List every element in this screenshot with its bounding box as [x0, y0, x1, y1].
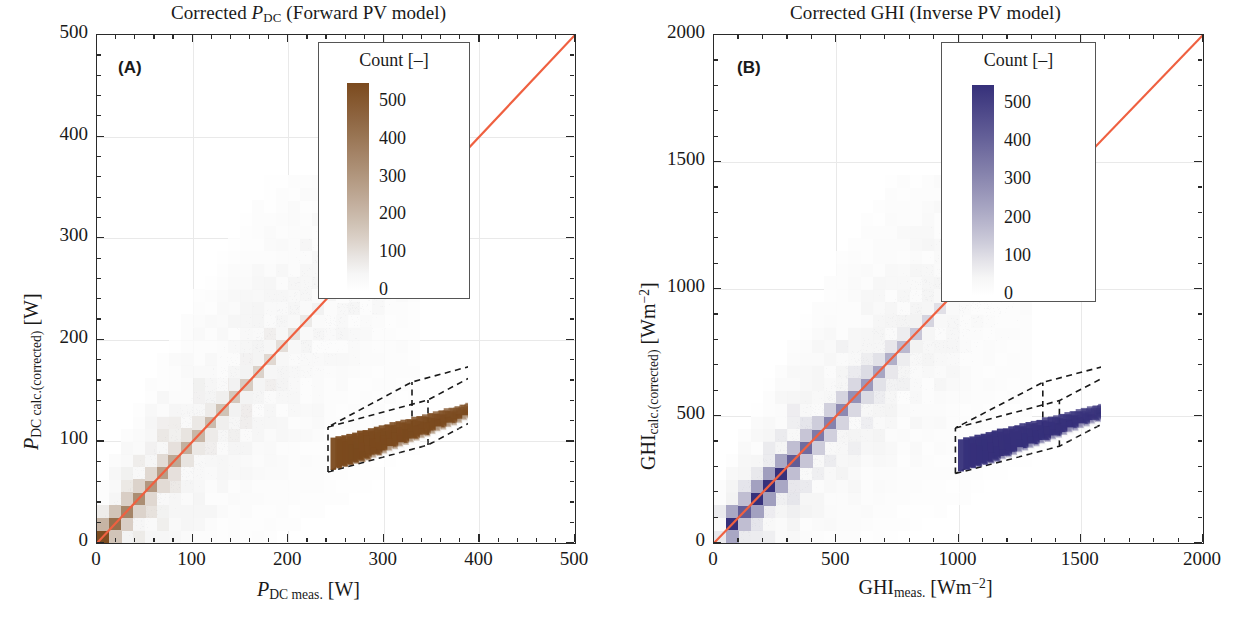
tick-y-minor — [713, 85, 718, 86]
tick-y-minor-right — [570, 115, 575, 116]
tick-x-minor-top — [498, 34, 499, 39]
panel-b-xaxis-title: GHImeas. [Wm−2] — [617, 576, 1234, 601]
tick-y-major-right — [1194, 542, 1202, 543]
colorbar-tick-label: 400 — [1004, 130, 1031, 151]
title-text-b: Corrected GHI (Inverse PV model) — [790, 2, 1061, 23]
tick-x-minor — [860, 538, 861, 543]
tick-x-minor-top — [1006, 34, 1007, 39]
tick-y-minor-right — [1198, 491, 1203, 492]
tick-y-minor-right — [1198, 466, 1203, 467]
tick-x-minor — [345, 538, 346, 543]
tick-x-minor — [211, 538, 212, 543]
tick-y-major — [96, 339, 104, 340]
tick-y-minor — [96, 217, 101, 218]
tick-x-minor-top — [1055, 34, 1056, 39]
tick-y-minor-right — [1198, 110, 1203, 111]
panel-b-yaxis-title: GHIcalc.(corrected) [Wm−2] — [637, 282, 662, 470]
tick-x-minor — [982, 538, 983, 543]
inset-3d-histogram-svg — [893, 352, 1101, 504]
tick-x-major-top — [383, 34, 384, 42]
tick-y-minor — [96, 258, 101, 259]
tick-x-minor-top — [982, 34, 983, 39]
title-text-a: Corrected PDC (Forward PV model) — [171, 2, 446, 23]
tick-y-minor — [713, 110, 718, 111]
tick-x-major — [1080, 534, 1081, 542]
x-tick-label: 0 — [673, 548, 753, 570]
tick-x-minor — [268, 538, 269, 543]
y-tick-label: 200 — [4, 326, 88, 348]
tick-y-major — [713, 542, 721, 543]
panel-b-colorbar-title: Count [–] — [942, 50, 1095, 71]
tick-y-minor — [713, 313, 718, 314]
tick-y-minor-right — [570, 258, 575, 259]
tick-x-minor — [1031, 538, 1032, 543]
y-tick-label: 500 — [4, 21, 88, 43]
tick-y-minor-right — [570, 318, 575, 319]
tick-y-minor-right — [570, 522, 575, 523]
colorbar-tick-label: 200 — [379, 203, 406, 224]
tick-y-minor — [713, 517, 718, 518]
tick-x-minor — [306, 538, 307, 543]
tick-x-major-top — [192, 34, 193, 42]
tick-x-major-top — [96, 34, 97, 42]
y-tick-label: 2000 — [621, 21, 705, 43]
tick-x-minor-top — [249, 34, 250, 39]
tick-x-minor-top — [440, 34, 441, 39]
colorbar-tick-label: 100 — [379, 241, 406, 262]
tick-y-minor — [96, 156, 101, 157]
tick-y-minor — [96, 461, 101, 462]
tick-y-major-right — [566, 542, 574, 543]
tick-x-minor-top — [1129, 34, 1130, 39]
tick-x-minor — [884, 538, 885, 543]
tick-x-major — [958, 534, 959, 542]
tick-y-minor — [96, 197, 101, 198]
figure-root: Corrected PDC (Forward PV model) (A) Cou… — [0, 0, 1234, 621]
tick-x-minor — [1006, 538, 1007, 543]
colorbar-tick-label: 0 — [379, 279, 388, 300]
tick-y-minor-right — [570, 501, 575, 502]
tick-y-minor-right — [570, 420, 575, 421]
y-tick-label: 100 — [4, 427, 88, 449]
tick-x-major — [835, 534, 836, 542]
tick-y-minor — [713, 263, 718, 264]
colorbar-tick-label: 500 — [379, 90, 406, 111]
tick-y-major — [96, 440, 104, 441]
tick-x-minor-top — [1104, 34, 1105, 39]
tick-y-major-right — [566, 339, 574, 340]
tick-x-minor — [364, 538, 365, 543]
tick-y-minor — [713, 364, 718, 365]
tick-x-minor — [249, 538, 250, 543]
tick-x-minor — [536, 538, 537, 543]
tick-y-major-right — [1194, 288, 1202, 289]
tick-x-major-top — [713, 34, 714, 42]
tick-y-minor — [96, 379, 101, 380]
tick-x-major-top — [835, 34, 836, 42]
y-tick-label: 1500 — [621, 148, 705, 170]
tick-y-minor-right — [570, 298, 575, 299]
tick-x-major — [287, 534, 288, 542]
tick-y-minor-right — [570, 75, 575, 76]
tick-y-minor-right — [570, 197, 575, 198]
tick-x-minor-top — [737, 34, 738, 39]
x-tick-label: 1500 — [1040, 548, 1120, 570]
tick-x-minor — [1153, 538, 1154, 543]
panel-a-colorbar-title: Count [–] — [319, 50, 469, 71]
tick-x-minor — [134, 538, 135, 543]
panel-b-colorbar-legend: Count [–] 0100200300400500 — [941, 42, 1096, 302]
tick-y-minor-right — [1198, 186, 1203, 187]
tick-x-minor — [1129, 538, 1130, 543]
tick-y-major — [96, 542, 104, 543]
tick-x-minor-top — [555, 34, 556, 39]
tick-x-minor-top — [230, 34, 231, 39]
tick-x-minor-top — [786, 34, 787, 39]
tick-y-major-right — [1194, 415, 1202, 416]
tick-y-minor — [96, 400, 101, 401]
tick-y-minor-right — [1198, 136, 1203, 137]
colorbar-tick-label: 200 — [1004, 207, 1031, 228]
panel-a: Corrected PDC (Forward PV model) (A) Cou… — [0, 0, 617, 621]
tick-y-minor-right — [570, 54, 575, 55]
colorbar-tick-label: 0 — [1004, 283, 1013, 304]
tick-y-major-right — [566, 136, 574, 137]
panel-a-tag: (A) — [118, 58, 142, 78]
tick-y-minor-right — [1198, 263, 1203, 264]
